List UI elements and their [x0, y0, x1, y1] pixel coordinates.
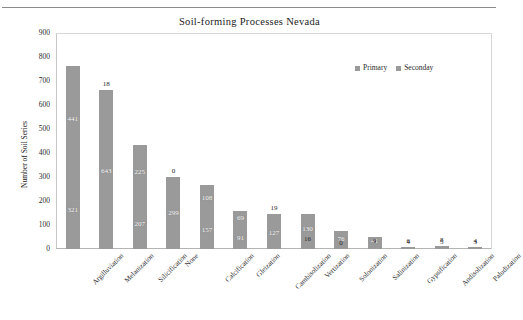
bar-segment-primary[interactable]: 9	[368, 247, 382, 249]
bar-group[interactable]: 225207	[133, 145, 147, 249]
x-tick-label: Argilluviation	[91, 252, 125, 286]
y-tick-label: 700	[16, 77, 50, 85]
bar-segment-primary[interactable]: 299	[166, 177, 180, 249]
bar-value-label: 3	[473, 239, 477, 246]
bar-segment-primary[interactable]: 3	[468, 248, 482, 249]
x-tick-label: Silicification	[157, 252, 189, 284]
chart-title: Soil-forming Processes Nevada	[0, 16, 499, 27]
y-tick-label: 400	[16, 149, 50, 157]
plot-area: 4413211864322520702991081576991191271301…	[56, 33, 492, 249]
bar-value-label: 69	[237, 215, 244, 222]
x-tick-label: Andisolization	[460, 252, 496, 288]
bar-value-label: 127	[269, 230, 280, 237]
bar-value-label: 9	[373, 238, 377, 245]
y-tick-label: 600	[16, 101, 50, 109]
bar-value-label: 19	[271, 205, 278, 212]
x-tick-label: Melanization	[123, 252, 155, 284]
y-tick-label: 800	[16, 53, 50, 61]
y-tick-label: 500	[16, 125, 50, 133]
bar-value-label: 299	[168, 210, 179, 217]
bar-segment-primary[interactable]: 643	[99, 95, 113, 249]
bar-value-label: 321	[68, 207, 79, 214]
x-tick-label: Paludization	[492, 252, 523, 283]
bar-segment-seconday[interactable]: 108	[200, 185, 214, 211]
x-tick-label: Gypsification	[426, 252, 459, 285]
bar-segment-primary[interactable]: 4	[401, 248, 415, 249]
x-tick-label: Gleization	[255, 252, 282, 279]
bar-value-label: 0	[172, 168, 176, 175]
top-divider-rule	[2, 7, 496, 8]
bar-value-label: 5	[440, 239, 444, 246]
bar-value-label: 207	[135, 221, 146, 228]
x-tick-label: Solonization	[358, 252, 389, 283]
bar-segment-primary[interactable]: 127	[267, 219, 281, 249]
x-tick-label: Salinization	[391, 252, 421, 282]
bar-segment-seconday[interactable]: 69	[233, 211, 247, 228]
bar-value-label: 108	[202, 195, 213, 202]
bar-value-label: 225	[135, 169, 146, 176]
bar-value-label: 0	[339, 240, 343, 247]
bar-value-label: 643	[101, 168, 112, 175]
y-tick-label: 100	[16, 221, 50, 229]
bar-group[interactable]: 0299	[166, 177, 180, 249]
bar-group[interactable]: 13016	[301, 214, 315, 249]
bar-segment-primary[interactable]: 157	[200, 211, 214, 249]
bar-group[interactable]: 108157	[200, 185, 214, 249]
bar-segment-primary[interactable]: 321	[66, 172, 80, 249]
bar-group[interactable]: 43	[468, 247, 482, 249]
bar-value-label: 16	[304, 236, 311, 243]
bar-group[interactable]: 419	[368, 237, 382, 249]
bar-segment-seconday[interactable]: 225	[133, 145, 147, 199]
x-tick-label: Calcification	[224, 252, 256, 284]
bar-value-label: 130	[302, 226, 313, 233]
bar-segment-primary[interactable]: 16	[301, 245, 315, 249]
y-tick-label: 900	[16, 29, 50, 37]
bar-group[interactable]: 85	[435, 246, 449, 249]
bar-value-label: 441	[68, 116, 79, 123]
bar-group[interactable]: 18643	[99, 90, 113, 249]
bar-segment-primary[interactable]: 91	[233, 227, 247, 249]
bar-group[interactable]: 19127	[267, 214, 281, 249]
y-tick-label: 200	[16, 197, 50, 205]
bar-group[interactable]: 6991	[233, 211, 247, 249]
bar-value-label: 4	[406, 239, 410, 246]
y-tick-label: 300	[16, 173, 50, 181]
y-tick-label: 0	[16, 245, 50, 253]
bar-value-label: 157	[202, 227, 213, 234]
bar-group[interactable]: 760	[334, 231, 348, 249]
bar-group[interactable]: 64	[401, 247, 415, 249]
bar-segment-primary[interactable]: 5	[435, 248, 449, 249]
bar-segment-primary[interactable]: 207	[133, 199, 147, 249]
bar-value-label: 91	[237, 235, 244, 242]
bar-value-label: 18	[103, 81, 110, 88]
bar-group[interactable]: 441321	[66, 66, 80, 249]
bar-segment-seconday[interactable]: 441	[66, 66, 80, 172]
